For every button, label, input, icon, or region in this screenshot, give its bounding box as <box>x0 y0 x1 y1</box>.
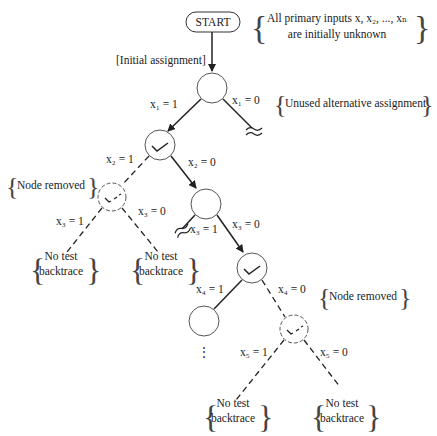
edge-label-x2-1: x₂ = 1 <box>106 153 134 165</box>
edge-label-x4-0: x₄ = 0 <box>278 283 306 295</box>
node-x3-removed <box>98 183 126 211</box>
left-brace-icon: { <box>251 9 267 46</box>
svg-text:No test: No test <box>326 397 360 409</box>
node-x3 <box>191 189 221 219</box>
svg-text:}: } <box>86 252 101 288</box>
start-label: START <box>196 16 231 28</box>
inputs-note-line1: All primary inputs x, x₂, ..., xₙ <box>267 12 407 25</box>
node-x2 <box>145 130 175 160</box>
right-brace-icon: } <box>414 9 430 46</box>
no-test-backtrace-note-3: { No test backtrace } <box>203 397 273 435</box>
no-test-backtrace-note-1: { No test backtrace } <box>30 250 101 288</box>
svg-text:}: } <box>399 283 411 312</box>
svg-text:Node removed: Node removed <box>329 290 397 302</box>
no-test-backtrace-note-2: { No test backtrace } <box>130 250 201 288</box>
svg-text:Unused alternative assignment: Unused alternative assignment <box>285 97 427 110</box>
node-x5-left <box>189 306 219 336</box>
edge-label-x1-1: x₁ = 1 <box>150 98 178 110</box>
node-x4 <box>237 253 267 283</box>
edge-label-x2-0: x₂ = 0 <box>188 156 216 168</box>
edge-label-x5-1: x₅ = 1 <box>240 346 268 358</box>
edge-label-x3-1-right: x₃ = 1 <box>190 223 218 235</box>
cut-squiggle-icon <box>174 223 192 238</box>
decision-tree-diagram: START { All primary inputs x, x₂, ..., x… <box>0 0 437 436</box>
no-test-backtrace-note-4: { No test backtrace } <box>311 397 381 435</box>
svg-text:}: } <box>366 399 381 435</box>
unused-alternative-note: { Unused alternative assignment } <box>274 90 433 119</box>
svg-text:No test: No test <box>145 250 179 262</box>
edge-label-x5-0: x₅ = 0 <box>320 346 348 358</box>
initial-assignment-label: [Initial assignment] <box>116 54 206 67</box>
svg-text:No test: No test <box>217 397 251 409</box>
svg-text:backtrace: backtrace <box>320 412 364 424</box>
svg-text:backtrace: backtrace <box>39 265 83 277</box>
node-x1 <box>197 73 227 103</box>
node-x5-removed <box>280 315 308 343</box>
inputs-note-line2: are initially unknown <box>288 28 387 41</box>
edge-label-x3-0-right: x₃ = 0 <box>232 218 260 230</box>
svg-text:}: } <box>258 399 273 435</box>
edge-label-x1-0: x₁ = 0 <box>232 94 260 106</box>
inputs-note: { All primary inputs x, x₂, ..., xₙ are … <box>251 9 430 46</box>
start-terminal: START <box>186 12 240 32</box>
svg-text:backtrace: backtrace <box>139 265 183 277</box>
node-removed-note-2: { Node removed } <box>318 283 411 312</box>
svg-text:}: } <box>421 90 433 119</box>
svg-text:Node removed: Node removed <box>17 179 85 191</box>
ellipsis-icon: ⋮ <box>198 346 210 358</box>
svg-text:backtrace: backtrace <box>211 412 255 424</box>
svg-text:No test: No test <box>45 250 79 262</box>
cut-squiggle-icon <box>246 128 262 136</box>
edge-label-x3-0-left: x₃ = 0 <box>138 205 166 217</box>
node-removed-note-1: { Node removed } <box>6 172 99 201</box>
edge-label-x3-1-left: x₃ = 1 <box>56 215 84 227</box>
edge-label-x4-1: x₄ = 1 <box>196 283 224 295</box>
